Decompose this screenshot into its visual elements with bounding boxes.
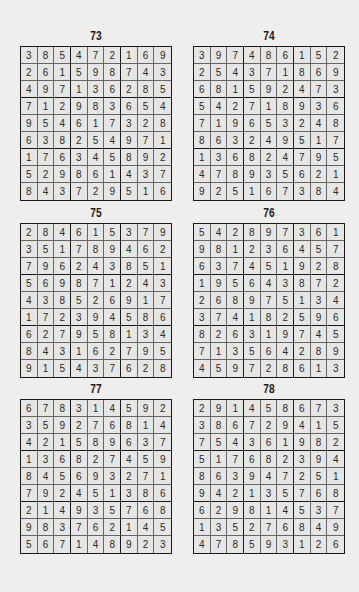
grid-cell: 7 (71, 519, 88, 536)
grid-cell: 7 (38, 149, 55, 166)
grid-cell: 4 (311, 115, 328, 132)
grid-cell: 2 (244, 241, 261, 258)
grid-cell: 9 (21, 360, 38, 377)
grid-cell: 4 (21, 292, 38, 309)
grid-cell: 1 (88, 400, 105, 417)
grid-cell: 3 (327, 81, 344, 98)
grid-cell: 4 (277, 343, 294, 360)
grid-cell: 7 (104, 451, 121, 468)
grid-cell: 7 (54, 81, 71, 98)
grid-cell: 5 (121, 400, 138, 417)
grid-cell: 6 (104, 417, 121, 434)
puzzle-number: 76 (204, 206, 333, 220)
grid-cell: 7 (277, 224, 294, 241)
grid-cell: 1 (21, 149, 38, 166)
grid-cell: 6 (227, 149, 244, 166)
grid-cell: 3 (38, 451, 55, 468)
grid-cell: 1 (244, 183, 261, 200)
grid-cell: 6 (121, 98, 138, 115)
grid-cell: 7 (327, 132, 344, 149)
grid-cell: 7 (154, 166, 171, 183)
grid-cell: 4 (211, 224, 228, 241)
grid-cell: 7 (154, 292, 171, 309)
grid-cell: 4 (138, 519, 155, 536)
grid-cell: 7 (244, 98, 261, 115)
grid-cell: 8 (211, 81, 228, 98)
grid-cell: 6 (71, 224, 88, 241)
grid-cell: 5 (227, 275, 244, 292)
grid-cell: 4 (277, 149, 294, 166)
grid-cell: 8 (138, 309, 155, 326)
grid-cell: 7 (71, 241, 88, 258)
sudoku-grid: 6783145923592768144215896371368274598456… (20, 399, 172, 554)
grid-cell: 3 (21, 241, 38, 258)
grid-cell: 5 (194, 224, 211, 241)
grid-cell: 3 (194, 47, 211, 64)
grid-cell: 7 (211, 166, 228, 183)
grid-cell: 8 (54, 132, 71, 149)
grid-cell: 7 (194, 343, 211, 360)
grid-cell: 8 (244, 149, 261, 166)
grid-cell: 3 (138, 434, 155, 451)
grid-cell: 3 (104, 468, 121, 485)
grid-cell: 3 (38, 132, 55, 149)
grid-cell: 2 (154, 149, 171, 166)
grid-cell: 3 (71, 149, 88, 166)
grid-cell: 1 (211, 343, 228, 360)
grid-cell: 7 (104, 360, 121, 377)
grid-cell: 1 (327, 468, 344, 485)
grid-cell: 4 (194, 536, 211, 553)
grid-cell: 6 (327, 309, 344, 326)
grid-cell: 9 (71, 502, 88, 519)
grid-cell: 7 (261, 519, 278, 536)
grid-cell: 5 (327, 149, 344, 166)
grid-cell: 2 (294, 115, 311, 132)
grid-cell: 5 (121, 183, 138, 200)
grid-cell: 8 (21, 343, 38, 360)
grid-cell: 1 (244, 485, 261, 502)
grid-cell: 7 (138, 132, 155, 149)
grid-cell: 3 (194, 417, 211, 434)
puzzle-75: 75 2846153793517894627962438515698712434… (20, 206, 172, 378)
grid-cell: 9 (38, 485, 55, 502)
grid-cell: 8 (261, 47, 278, 64)
grid-cell: 8 (71, 166, 88, 183)
grid-cell: 1 (311, 417, 328, 434)
grid-cell: 9 (194, 485, 211, 502)
grid-cell: 9 (121, 132, 138, 149)
grid-cell: 5 (311, 468, 328, 485)
grid-cell: 8 (104, 326, 121, 343)
grid-cell: 4 (54, 224, 71, 241)
grid-cell: 1 (227, 81, 244, 98)
grid-cell: 4 (194, 360, 211, 377)
grid-cell: 4 (38, 183, 55, 200)
grid-cell: 3 (121, 485, 138, 502)
grid-cell: 2 (38, 434, 55, 451)
grid-cell: 6 (38, 64, 55, 81)
grid-cell: 8 (211, 241, 228, 258)
grid-cell: 8 (88, 241, 105, 258)
grid-cell: 4 (21, 81, 38, 98)
grid-cell: 9 (277, 326, 294, 343)
grid-cell: 8 (38, 519, 55, 536)
grid-cell: 1 (121, 519, 138, 536)
grid-cell: 2 (261, 417, 278, 434)
grid-cell: 5 (327, 326, 344, 343)
grid-cell: 9 (138, 149, 155, 166)
grid-cell: 1 (38, 98, 55, 115)
grid-cell: 3 (71, 400, 88, 417)
grid-cell: 4 (261, 275, 278, 292)
grid-cell: 6 (121, 360, 138, 377)
grid-cell: 2 (154, 400, 171, 417)
grid-cell: 6 (311, 485, 328, 502)
grid-cell: 6 (21, 132, 38, 149)
grid-cell: 4 (244, 400, 261, 417)
grid-cell: 9 (121, 536, 138, 553)
grid-cell: 8 (261, 451, 278, 468)
grid-cell: 2 (194, 292, 211, 309)
grid-cell: 4 (294, 241, 311, 258)
grid-cell: 2 (311, 258, 328, 275)
grid-cell: 6 (88, 166, 105, 183)
grid-cell: 5 (154, 81, 171, 98)
grid-cell: 8 (38, 47, 55, 64)
